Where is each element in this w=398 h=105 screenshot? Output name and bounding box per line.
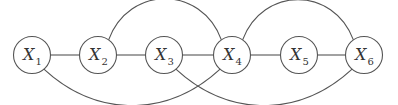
node-label-subscript: 4 <box>235 56 241 67</box>
node-label-main: X <box>21 45 35 64</box>
node-label-main: X <box>87 45 101 64</box>
node-label-subscript: 2 <box>101 56 107 67</box>
edge-x3-x6 <box>176 69 352 105</box>
graph-diagram: X1X2X3X4X5X6 <box>0 0 398 105</box>
edge-x2-x4 <box>109 0 222 40</box>
graph-svg: X1X2X3X4X5X6 <box>0 0 398 105</box>
node-label-subscript: 5 <box>302 56 308 67</box>
node-x3: X3 <box>146 37 183 74</box>
node-x1: X1 <box>14 37 51 74</box>
node-label-subscript: 3 <box>167 56 173 67</box>
node-label-main: X <box>288 45 302 64</box>
node-x5: X5 <box>281 37 318 74</box>
edge-x4-x6 <box>243 0 354 40</box>
edge-x1-x4 <box>44 69 220 105</box>
node-x2: X2 <box>80 37 117 74</box>
node-x6: X6 <box>346 37 383 74</box>
node-x4: X4 <box>214 37 251 74</box>
node-label-main: X <box>153 45 167 64</box>
node-label-subscript: 6 <box>367 56 373 67</box>
node-label-subscript: 1 <box>35 56 41 67</box>
node-label-main: X <box>353 45 367 64</box>
node-label-main: X <box>221 45 235 64</box>
